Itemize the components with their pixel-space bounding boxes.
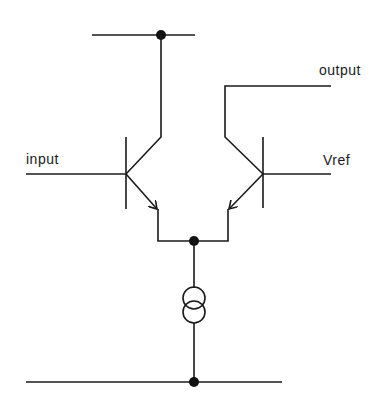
- circuit-diagram: input output Vref: [0, 0, 390, 409]
- bottom-rail-junction: [189, 377, 199, 387]
- transistor-q2: [225, 86, 331, 209]
- current-source-icon: [183, 287, 205, 323]
- transistor-q1: [26, 35, 161, 209]
- q2-emitter-arrow: [229, 174, 263, 209]
- q2-collector-output: [225, 86, 331, 174]
- q1-collector: [126, 35, 161, 174]
- output-label: output: [319, 62, 361, 78]
- input-label: input: [26, 151, 59, 167]
- vref-label: Vref: [323, 152, 350, 168]
- q1-emitter-arrow: [126, 174, 157, 209]
